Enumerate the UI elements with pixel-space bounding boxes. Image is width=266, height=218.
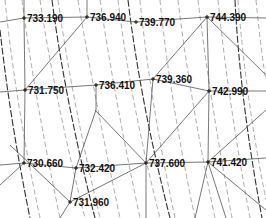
elevation-label: 739.770 — [139, 17, 176, 28]
elevation-label: 733.190 — [27, 13, 64, 24]
contour-lines — [5, 0, 266, 218]
elevation-label: 736.940 — [90, 12, 127, 23]
spot-elevation: 736.940 — [85, 12, 127, 23]
elevation-label: 732.420 — [79, 163, 116, 174]
elevation-label: 739.360 — [156, 74, 193, 85]
elevation-label: 730.660 — [27, 158, 64, 169]
elevation-label: 744.390 — [210, 12, 247, 23]
spot-elevation: 741.420 — [206, 157, 248, 168]
spot-elevation: 730.660 — [22, 158, 64, 169]
spot-elevation: 739.360 — [151, 74, 193, 85]
spot-elevation: 731.960 — [68, 197, 110, 208]
spot-elevation: 739.770 — [134, 17, 176, 28]
elevation-label: 736.410 — [99, 80, 136, 91]
elevation-label: 731.750 — [28, 85, 65, 96]
spot-elevation: 744.390 — [205, 12, 247, 23]
tin-contour-diagram: 733.190736.940739.770744.390731.750736.4… — [0, 0, 266, 218]
point-marker-icon — [94, 83, 98, 87]
point-marker-icon — [22, 16, 26, 20]
point-marker-icon — [74, 166, 78, 170]
elevation-label: 742.990 — [212, 86, 249, 97]
spot-elevations: 733.190736.940739.770744.390731.750736.4… — [22, 12, 249, 208]
spot-elevation: 732.420 — [74, 163, 116, 174]
elevation-label: 731.960 — [73, 197, 110, 208]
spot-elevation: 731.750 — [23, 85, 65, 96]
spot-elevation: 737.600 — [144, 158, 186, 169]
spot-elevation: 742.990 — [207, 86, 249, 97]
spot-elevation: 733.190 — [22, 13, 64, 24]
elevation-label: 737.600 — [149, 158, 186, 169]
spot-elevation: 736.410 — [94, 80, 136, 91]
point-marker-icon — [134, 20, 138, 24]
elevation-label: 741.420 — [211, 157, 248, 168]
